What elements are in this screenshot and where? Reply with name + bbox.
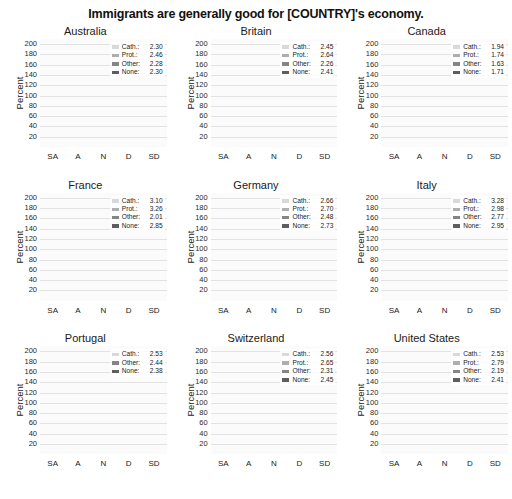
y-tick-label: 100	[366, 92, 379, 100]
legend-swatch-icon	[112, 353, 119, 357]
x-tick-label: D	[290, 152, 309, 161]
y-tick-label: 140	[195, 225, 208, 233]
y-tick-label: 40	[29, 430, 37, 438]
legend-item: Cath.:2.53	[453, 350, 504, 358]
legend-item: Prot.:1.74	[453, 51, 504, 59]
y-tick-label: 180	[24, 204, 37, 212]
legend-value: 2.30	[150, 43, 163, 51]
legend-swatch-icon	[112, 216, 119, 220]
x-tick-label: SA	[43, 306, 62, 315]
plot-area: Cath.:2.56Prot.:2.65Other:2.31None:2.45	[211, 346, 338, 454]
y-tick-label: 80	[29, 102, 37, 110]
x-tick-label: D	[460, 459, 479, 468]
y-tick-label: 200	[195, 194, 208, 202]
legend-value: 2.30	[150, 68, 163, 76]
y-axis-ticks: 20406080100120140160180200	[17, 193, 37, 301]
y-tick-label: 20	[199, 133, 207, 141]
y-tick-label: 180	[195, 204, 208, 212]
legend-swatch-icon	[112, 361, 119, 365]
x-tick-label: SD	[144, 152, 163, 161]
plot-area: Cath.:2.30Prot.:2.46Other:2.28None:2.30	[40, 39, 167, 147]
panel-canada: CanadaPercent20406080100120140160180200C…	[341, 21, 512, 175]
y-tick-label: 180	[366, 204, 379, 212]
x-tick-label: A	[69, 306, 88, 315]
legend-value: 2.53	[491, 350, 504, 358]
panel-australia: AustraliaPercent204060801001201401601802…	[0, 21, 171, 175]
legend-item: Other:2.31	[282, 367, 333, 375]
panel-legend: Cath.:2.30Prot.:2.46Other:2.28None:2.30	[110, 42, 165, 78]
y-tick-label: 160	[24, 215, 37, 223]
x-axis-ticks: SAANDSD	[381, 152, 508, 161]
legend-swatch-icon	[453, 62, 460, 66]
panel-title: Switzerland	[171, 330, 342, 346]
legend-item: Prot.:2.79	[453, 359, 504, 367]
legend-swatch-icon	[453, 199, 460, 203]
panel-title: Italy	[341, 177, 512, 193]
y-tick-label: 140	[195, 379, 208, 387]
legend-swatch-icon	[453, 378, 460, 382]
y-tick-label: 180	[366, 358, 379, 366]
x-tick-label: D	[460, 152, 479, 161]
y-tick-label: 80	[199, 102, 207, 110]
legend-item: Cath.:1.94	[453, 43, 504, 51]
legend-value: 1.63	[491, 60, 504, 68]
y-tick-label: 160	[24, 61, 37, 69]
legend-label: Cath.:	[463, 350, 489, 358]
legend-value: 2.28	[150, 60, 163, 68]
x-tick-label: SD	[144, 306, 163, 315]
plot-area-wrapper: Percent20406080100120140160180200Cath.:3…	[345, 193, 508, 301]
legend-value: 2.45	[320, 43, 333, 51]
y-tick-label: 80	[370, 102, 378, 110]
legend-swatch-icon	[453, 71, 460, 75]
x-tick-label: A	[69, 152, 88, 161]
panel-grid: AustraliaPercent204060801001201401601802…	[0, 21, 512, 482]
legend-swatch-icon	[112, 370, 119, 374]
y-tick-label: 180	[195, 51, 208, 59]
x-tick-label: D	[290, 459, 309, 468]
legend-item: None:1.71	[453, 68, 504, 76]
legend-swatch-icon	[282, 361, 289, 365]
y-tick-label: 40	[370, 430, 378, 438]
y-tick-label: 40	[370, 123, 378, 131]
legend-label: Prot.:	[292, 359, 318, 367]
y-tick-label: 80	[199, 256, 207, 264]
legend-value: 2.85	[150, 222, 163, 230]
panel-title: Portugal	[0, 330, 171, 346]
x-tick-label: SA	[214, 152, 233, 161]
x-tick-label: SA	[214, 306, 233, 315]
x-tick-label: SD	[315, 459, 334, 468]
x-tick-label: N	[94, 459, 113, 468]
legend-label: None:	[122, 68, 148, 76]
legend-value: 3.28	[491, 197, 504, 205]
legend-label: Other:	[122, 213, 148, 221]
y-tick-label: 160	[195, 61, 208, 69]
y-axis-ticks: 20406080100120140160180200	[358, 39, 378, 147]
panel-legend: Cath.:2.53Prot.:2.79Other:2.19None:2.41	[451, 349, 506, 385]
y-tick-label: 120	[366, 389, 379, 397]
y-tick-label: 160	[366, 368, 379, 376]
legend-label: Other:	[463, 367, 489, 375]
legend-value: 2.79	[491, 359, 504, 367]
y-tick-label: 200	[366, 40, 379, 48]
y-tick-label: 60	[199, 420, 207, 428]
y-tick-label: 80	[370, 409, 378, 417]
panel-title: France	[0, 177, 171, 193]
y-tick-label: 40	[199, 430, 207, 438]
plot-area-wrapper: Percent20406080100120140160180200Cath.:2…	[4, 346, 167, 454]
legend-value: 3.26	[150, 205, 163, 213]
legend-item: Prot.:2.64	[282, 51, 333, 59]
legend-value: 2.95	[491, 222, 504, 230]
x-tick-label: N	[435, 459, 454, 468]
legend-label: Cath.:	[463, 197, 489, 205]
y-tick-label: 200	[195, 40, 208, 48]
plot-area: Cath.:2.45Prot.:2.64Other:2.26None:2.41	[211, 39, 338, 147]
legend-swatch-icon	[112, 71, 119, 75]
legend-swatch-icon	[282, 224, 289, 228]
x-tick-label: A	[69, 459, 88, 468]
legend-value: 2.01	[150, 213, 163, 221]
legend-item: None:2.95	[453, 222, 504, 230]
y-tick-label: 200	[24, 194, 37, 202]
x-axis-ticks: SAANDSD	[211, 459, 338, 468]
x-tick-label: D	[460, 306, 479, 315]
panel-italy: ItalyPercent20406080100120140160180200Ca…	[341, 175, 512, 329]
